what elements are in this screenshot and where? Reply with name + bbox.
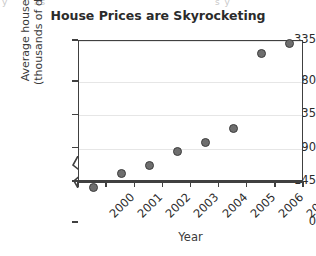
data-point-2003	[173, 147, 182, 156]
x-tick-label-2002: 2002	[163, 190, 194, 221]
gridline	[79, 149, 302, 150]
x-tick-mark-2	[134, 181, 135, 187]
chart-title: House Prices are Skyrocketing	[0, 8, 316, 23]
data-point-2000	[89, 183, 98, 192]
x-tick-mark-1	[105, 181, 106, 187]
gridline	[79, 82, 302, 83]
x-tick-label-2003: 2003	[191, 190, 222, 221]
y-axis-label-line-1: Average house price	[19, 0, 32, 100]
x-tick-label-2001: 2001	[135, 190, 166, 221]
gridline	[79, 41, 302, 42]
x-tick-mark-8	[302, 181, 303, 187]
plot-area	[78, 40, 303, 181]
y-axis-label: Average house price (thousands of dollar…	[19, 0, 45, 100]
data-point-2007	[285, 39, 294, 48]
x-tick-mark-4	[190, 181, 191, 187]
x-tick-label-2000: 2000	[107, 190, 138, 221]
data-point-2002	[145, 161, 154, 170]
x-tick-mark-7	[274, 181, 275, 187]
data-point-2004	[201, 138, 210, 147]
y-tick-mark-0	[72, 221, 78, 222]
data-point-2005	[229, 124, 238, 133]
x-tick-mark-0	[77, 181, 78, 187]
x-tick-mark-5	[218, 181, 219, 187]
x-tick-label-2004: 2004	[219, 190, 250, 221]
data-point-2001	[117, 169, 126, 178]
scatter-chart-figure: House Prices are Skyrocketing Average ho…	[0, 0, 316, 256]
x-tick-mark-6	[246, 181, 247, 187]
gridline	[79, 115, 302, 116]
y-axis-label-line-2: (thousands of dollars)	[32, 0, 45, 100]
x-axis-label: Year	[78, 230, 303, 244]
x-tick-label-2005: 2005	[247, 190, 278, 221]
data-point-2006	[257, 49, 266, 58]
x-tick-mark-3	[162, 181, 163, 187]
